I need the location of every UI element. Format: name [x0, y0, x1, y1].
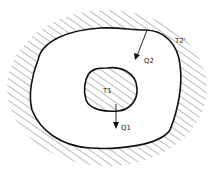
outer-flux-label: Q2: [144, 57, 154, 65]
inner-flux-label: Q1: [121, 124, 131, 132]
inner-temp-label: T1: [102, 87, 112, 95]
outer-temp-label: T2': [174, 37, 186, 45]
cavity-diagram: T2' Q2 T1 Q1: [0, 0, 213, 172]
